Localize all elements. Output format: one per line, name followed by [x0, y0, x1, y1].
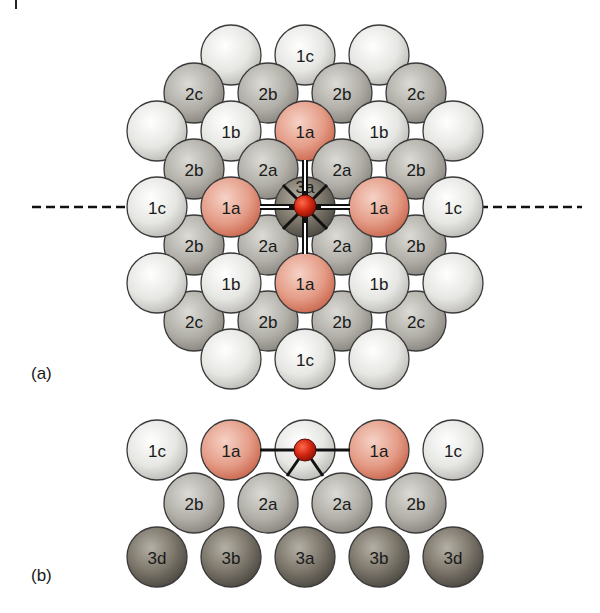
panel-a-atom-1b: 1b	[349, 253, 409, 313]
panel-b-atom-1c: 1c	[127, 420, 187, 480]
atom-label: 3b	[222, 549, 241, 568]
atom-label: 2a	[259, 495, 278, 514]
panel-a-atom-unlabeled	[349, 329, 409, 389]
atom-label: 3a	[296, 549, 315, 568]
panel-a-atom-1c: 1c	[423, 177, 483, 237]
panel-b-atom-2a: 2a	[238, 473, 298, 533]
atom-label: 1c	[296, 351, 314, 370]
atom-label: 2b	[407, 237, 426, 256]
atom-label: 2b	[259, 313, 278, 332]
atom-label: 2a	[259, 161, 278, 180]
panel-b-label: (b)	[31, 566, 52, 586]
atom-label: 2a	[333, 237, 352, 256]
panel-b-atom-1c: 1c	[423, 420, 483, 480]
atom-label: 1c	[444, 442, 462, 461]
panel-a-atom-1a: 1a	[349, 177, 409, 237]
panel-b-atom-2a: 2a	[312, 473, 372, 533]
atom-label: 2a	[333, 161, 352, 180]
atom-label: 2c	[185, 313, 203, 332]
atom-label: 1c	[148, 199, 166, 218]
atom-label: 2b	[259, 85, 278, 104]
atom-label: 2c	[407, 313, 425, 332]
atom-label: 2b	[407, 161, 426, 180]
atom-label: 2b	[407, 495, 426, 514]
panel-a-top-view: 1c2c2b2b2c1b1a1b2b2a2a2b2b2a2a2b1c1a1a1c…	[32, 25, 582, 389]
atom-label: 2b	[333, 85, 352, 104]
atom-label: 1a	[370, 442, 389, 461]
atom-label: 1a	[222, 199, 241, 218]
atom-label: 1b	[222, 123, 241, 142]
panel-a-label: (a)	[31, 364, 52, 384]
panel-a-atom-unlabeled	[423, 253, 483, 313]
atom-label: 1a	[296, 123, 315, 142]
atom-label: 3d	[444, 549, 463, 568]
atom-label: 1b	[370, 275, 389, 294]
panel-b-side-view: 1c1a1a1c2b2a2a2b3d3b3a3b3d	[127, 420, 483, 587]
atom-label: 1a	[222, 442, 241, 461]
atom-label: 1a	[370, 199, 389, 218]
panel-b-atom-3b: 3b	[349, 527, 409, 587]
atom-label: 2b	[333, 313, 352, 332]
panel-a-atom-1c: 1c	[275, 329, 335, 389]
atom-label: 2a	[333, 495, 352, 514]
atom-label: 3d	[148, 549, 167, 568]
atom-label: 1a	[296, 275, 315, 294]
atom-label: 1b	[370, 123, 389, 142]
atom-label: 1c	[148, 442, 166, 461]
panel-b-atom-1a: 1a	[349, 420, 409, 480]
atom-label: 2b	[185, 495, 204, 514]
atom-label: 1c	[444, 199, 462, 218]
atom-label: 2c	[185, 85, 203, 104]
atom-label: 2b	[185, 237, 204, 256]
atom-label: 2b	[185, 161, 204, 180]
panel-b-atom-3d: 3d	[423, 527, 483, 587]
panel-a-atom-1b: 1b	[201, 253, 261, 313]
panel-a-atom-unlabeled	[201, 329, 261, 389]
panel-b-atom-2b: 2b	[164, 473, 224, 533]
adsorption-site-diagram: 1c2c2b2b2c1b1a1b2b2a2a2b2b2a2a2b1c1a1a1c…	[0, 0, 600, 613]
panel-b-atom-3b: 3b	[201, 527, 261, 587]
panel-b-atom-3a: 3a	[275, 527, 335, 587]
adsorbate-atom	[294, 439, 316, 461]
atom-label: 1c	[296, 47, 314, 66]
atom-label: 2c	[407, 85, 425, 104]
panel-a-atom-1a: 1a	[275, 253, 335, 313]
atom-label: 2a	[259, 237, 278, 256]
panel-b-atom-3d: 3d	[127, 527, 187, 587]
panel-b-atom-1a: 1a	[201, 420, 261, 480]
panel-b-atom-2b: 2b	[386, 473, 446, 533]
panel-a-atom-unlabeled	[127, 253, 187, 313]
adsorbate-atom	[294, 195, 316, 217]
atom-label: 3b	[370, 549, 389, 568]
panel-a-atom-1c: 1c	[127, 177, 187, 237]
panel-a-atom-1a: 1a	[201, 177, 261, 237]
atom-label: 1b	[222, 275, 241, 294]
